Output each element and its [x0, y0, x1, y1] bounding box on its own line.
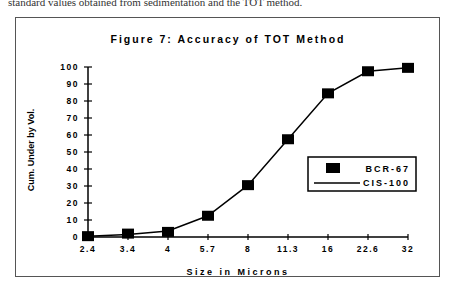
data-point-bcr67: [162, 227, 174, 237]
data-point-bcr67: [322, 88, 334, 98]
x-tick-label: 4: [165, 244, 171, 254]
y-tick-label: 0: [73, 232, 79, 242]
data-point-bcr67: [402, 63, 414, 73]
x-tick-label: 8: [245, 244, 251, 254]
y-tick-label: 20: [67, 198, 79, 208]
chart-title: Figure 7: Accuracy of TOT Method: [111, 33, 346, 45]
line-chart: Figure 7: Accuracy of TOT Method Cum. Un…: [0, 0, 454, 297]
x-tick-label: 32: [402, 244, 414, 254]
data-point-bcr67: [242, 180, 254, 190]
y-tick-label: 70: [67, 113, 79, 123]
data-point-bcr67: [282, 134, 294, 144]
y-tick-label: 40: [67, 164, 79, 174]
y-tick-label: 90: [67, 79, 79, 89]
y-axis-label: Cum. Under by Vol.: [26, 109, 36, 191]
x-tick-label: 3.4: [120, 244, 136, 254]
data-point-bcr67: [362, 66, 374, 76]
legend-square-marker-icon: [326, 163, 340, 173]
x-axis-label: Size in Microns: [186, 267, 289, 277]
y-tick-label: 60: [67, 130, 79, 140]
y-tick-label: 30: [67, 181, 79, 191]
y-tick-label: 10: [67, 215, 79, 225]
series-line-cis100: [88, 68, 408, 236]
legend-label-bcr67: BCR-67: [365, 164, 410, 174]
legend-label-cis100: CIS-100: [363, 178, 410, 188]
y-tick-label: 100: [60, 62, 79, 72]
data-point-bcr67: [82, 231, 94, 241]
legend: BCR-67 CIS-100: [308, 157, 416, 191]
x-tick-label: 11.3: [277, 244, 299, 254]
x-tick-label: 2.4: [80, 244, 96, 254]
x-tick-label: 5.7: [200, 244, 216, 254]
plot-area: [82, 63, 414, 241]
x-tick-label: 16: [322, 244, 334, 254]
y-tick-label: 80: [67, 96, 79, 106]
y-tick-label: 50: [67, 147, 79, 157]
x-tick-label: 22.6: [357, 244, 380, 254]
data-point-bcr67: [122, 229, 134, 239]
data-point-bcr67: [202, 211, 214, 221]
